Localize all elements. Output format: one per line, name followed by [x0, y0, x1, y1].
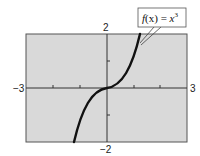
y-max-label: 2 [103, 22, 109, 33]
graph-figure: −3 3 2 −2 f(x) = x3 [0, 0, 200, 156]
x-min-label: −3 [13, 83, 25, 94]
x-max-label: 3 [190, 83, 196, 94]
function-label: f(x) = x3 [142, 11, 178, 25]
y-min-label: −2 [100, 144, 112, 155]
